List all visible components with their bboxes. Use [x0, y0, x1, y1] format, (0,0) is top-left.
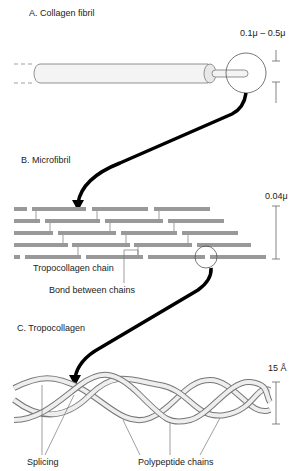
fibril-diameter-label: 0.1μ – 0.5μ — [240, 28, 285, 38]
polypeptide-label: Polypeptide chains — [138, 457, 214, 467]
bond-label: Bond between chains — [49, 285, 135, 295]
section-a-title: A. Collagen fibril — [29, 8, 95, 18]
section-c-title: C. Tropocollagen — [17, 323, 85, 333]
tropocollagen-chain-label: Tropocollagen chain — [33, 263, 114, 273]
triple-helix — [14, 375, 270, 422]
microfibril-diameter-label: 0.04μ — [265, 191, 288, 201]
helix-diameter-label: 15 Å — [268, 363, 287, 373]
section-b-title: B. Microfibril — [21, 155, 71, 165]
zoom-arrow-a-b — [78, 93, 246, 203]
collagen-fibril — [14, 50, 280, 103]
collagen-diagram — [0, 0, 297, 471]
microfibril-bars — [14, 207, 266, 259]
splicing-label: Splicing — [27, 457, 59, 467]
